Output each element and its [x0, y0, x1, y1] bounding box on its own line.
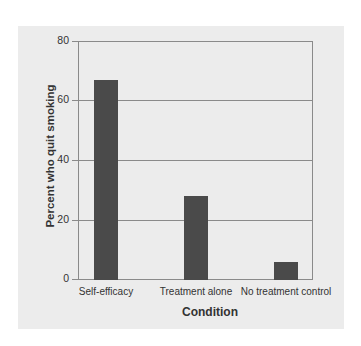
- y-tick: [72, 41, 78, 42]
- y-tick: [72, 100, 78, 101]
- bar-self-efficacy: [94, 80, 118, 280]
- y-tick-label: 80: [39, 34, 69, 46]
- y-tick-label: 20: [39, 213, 69, 225]
- y-tick: [72, 279, 78, 280]
- y-tick: [72, 160, 78, 161]
- y-tick-label: 40: [39, 153, 69, 165]
- bar-treatment-alone: [184, 196, 208, 280]
- y-tick-label: 0: [39, 272, 69, 284]
- y-tick: [72, 220, 78, 221]
- y-tick-label: 60: [39, 93, 69, 105]
- x-axis-label: Condition: [150, 305, 270, 319]
- x-tick-label: No treatment control: [231, 286, 341, 297]
- bar-no-treatment-control: [274, 262, 298, 280]
